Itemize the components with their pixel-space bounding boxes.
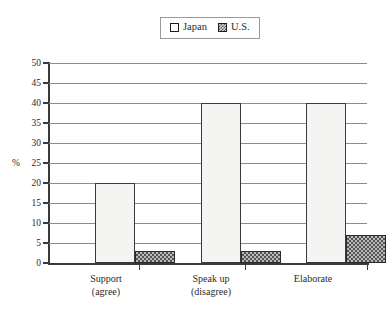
x-axis-category-tick	[245, 263, 246, 270]
x-axis-category-label-line: Speak up	[191, 272, 231, 285]
y-axis-tick-label: 40	[32, 98, 42, 108]
y-axis-tick	[43, 82, 49, 83]
y-axis-tick-label: 0	[36, 258, 41, 268]
x-axis-category-label-line: Support	[90, 272, 122, 285]
y-axis-tick	[43, 142, 49, 143]
y-axis-tick-label: 45	[32, 78, 42, 88]
gridline	[48, 63, 367, 64]
legend-entry-us: U.S.	[218, 22, 250, 33]
y-axis-tick-label: 10	[32, 218, 42, 228]
bar-japan-1	[201, 103, 241, 263]
chart-legend: Japan U.S.	[160, 17, 260, 39]
bar-us-1	[241, 251, 281, 263]
x-axis-category-label: Support(agree)	[90, 272, 122, 298]
empty-square-swatch-icon	[170, 23, 179, 32]
x-axis-category-tick	[367, 263, 368, 270]
x-axis-line	[48, 263, 369, 265]
y-axis-tick-label: 5	[36, 238, 41, 248]
legend-label-us: U.S.	[231, 22, 250, 33]
y-axis-tick	[43, 122, 49, 123]
x-axis-category-label-line: (disagree)	[191, 285, 231, 298]
y-axis-tick	[43, 62, 49, 63]
y-axis-tick-label: 25	[32, 158, 42, 168]
y-axis-tick-label: 20	[32, 178, 42, 188]
y-axis-tick-label: 15	[32, 198, 42, 208]
checkered-square-swatch-icon	[218, 23, 227, 32]
y-axis-tick	[43, 222, 49, 223]
x-axis-category-label-line: Elaborate	[294, 272, 332, 285]
x-axis-category-tick	[139, 263, 140, 270]
plot-area: 50454035302520151050	[48, 63, 367, 263]
y-axis-tick-label: 35	[32, 118, 42, 128]
bar-japan-0	[95, 183, 135, 263]
y-axis-tick	[43, 102, 49, 103]
y-axis-tick	[43, 162, 49, 163]
legend-label-japan: Japan	[183, 22, 207, 33]
y-axis-tick	[43, 182, 49, 183]
x-axis-category-label: Speak up(disagree)	[191, 272, 231, 298]
legend-entry-japan: Japan	[170, 22, 207, 33]
y-axis-tick	[43, 242, 49, 243]
gridline	[48, 83, 367, 84]
x-axis-category-label-line: (agree)	[90, 285, 122, 298]
bar-japan-2	[306, 103, 346, 263]
y-axis-tick	[43, 202, 49, 203]
y-axis-tick-label: 50	[32, 58, 42, 68]
bar-us-0	[135, 251, 175, 263]
x-axis-category-label: Elaborate	[294, 272, 332, 285]
y-axis-title: %	[12, 158, 20, 168]
y-axis-tick	[43, 262, 49, 263]
bar-us-2	[346, 235, 386, 263]
y-axis-tick-label: 30	[32, 138, 42, 148]
